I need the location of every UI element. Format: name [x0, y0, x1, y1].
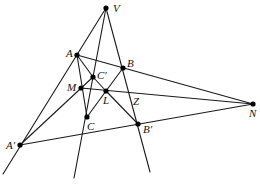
label-l: L	[102, 94, 109, 106]
geometry-diagram: VABC′MLCB′NA′Z	[0, 0, 260, 187]
line-LB	[106, 68, 123, 91]
point-cp	[90, 74, 95, 79]
label-m: M	[66, 81, 77, 93]
point-ap	[17, 142, 22, 147]
point-m	[78, 85, 83, 90]
label-n: N	[248, 107, 257, 119]
diagram-lines	[3, 8, 253, 178]
line-VB-Bprime	[106, 8, 150, 172]
point-c	[84, 114, 89, 119]
label-bp: B′	[143, 123, 153, 135]
label-v: V	[113, 2, 121, 14]
point-a	[74, 52, 79, 57]
diagram-points	[17, 5, 255, 147]
point-l	[103, 88, 108, 93]
label-b: B	[127, 57, 134, 69]
point-b	[120, 65, 125, 70]
diagram-labels: VABC′MLCB′NA′Z	[5, 2, 257, 151]
point-n	[250, 101, 255, 106]
point-bp	[135, 121, 140, 126]
point-v	[103, 5, 108, 10]
label-c: C	[87, 120, 95, 132]
label-z: Z	[133, 95, 140, 107]
label-ap: A′	[5, 139, 16, 151]
label-cp: C′	[97, 69, 107, 81]
label-a: A	[65, 47, 73, 59]
